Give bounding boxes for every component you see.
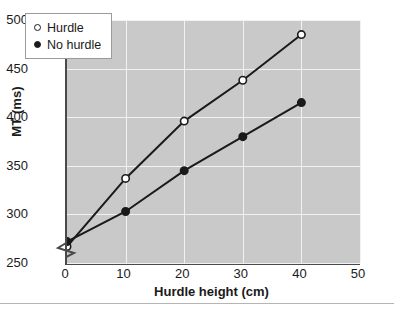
open-circle-icon: [34, 24, 41, 31]
x-axis-tick-label: 50: [343, 266, 373, 281]
data-point-hurdle: [239, 77, 246, 84]
x-axis-tick-label: 40: [284, 266, 314, 281]
filled-circle-icon: [34, 41, 41, 48]
y-axis-tick-label: 500: [0, 13, 28, 26]
legend-label: No hurdle: [47, 38, 101, 52]
x-axis-tick-label: 10: [109, 266, 139, 281]
x-axis-title: Hurdle height (cm): [65, 284, 358, 299]
x-axis-tick-label: 0: [50, 266, 80, 281]
data-point-no-hurdle: [181, 167, 188, 174]
data-point-hurdle: [122, 175, 129, 182]
y-axis-tick-label: 400: [0, 110, 28, 123]
bottom-divider: [0, 303, 394, 304]
y-axis-tick-label: 450: [0, 62, 28, 75]
y-axis-tick-label: 250: [0, 256, 28, 269]
legend-item-hurdle: Hurdle: [34, 19, 101, 36]
series-line-hurdle: [67, 35, 301, 247]
chart-legend: Hurdle No hurdle: [25, 13, 112, 59]
y-axis-tick-label: 350: [0, 159, 28, 172]
x-axis-tick-label: 30: [226, 266, 256, 281]
gridline-horizontal: [67, 263, 360, 264]
axis-break-icon: [55, 236, 77, 260]
data-point-hurdle: [298, 31, 305, 38]
gridline-vertical: [360, 20, 361, 263]
data-point-hurdle: [181, 117, 188, 124]
chart-figure: MT (ms) 250300350400450500 01020304050 H…: [0, 0, 394, 315]
y-axis-tick-label: 300: [0, 207, 28, 220]
data-point-no-hurdle: [298, 99, 305, 106]
legend-item-no-hurdle: No hurdle: [34, 36, 101, 53]
data-point-no-hurdle: [122, 208, 129, 215]
legend-label: Hurdle: [47, 21, 84, 35]
data-point-no-hurdle: [239, 133, 246, 140]
x-axis-tick-label: 20: [167, 266, 197, 281]
